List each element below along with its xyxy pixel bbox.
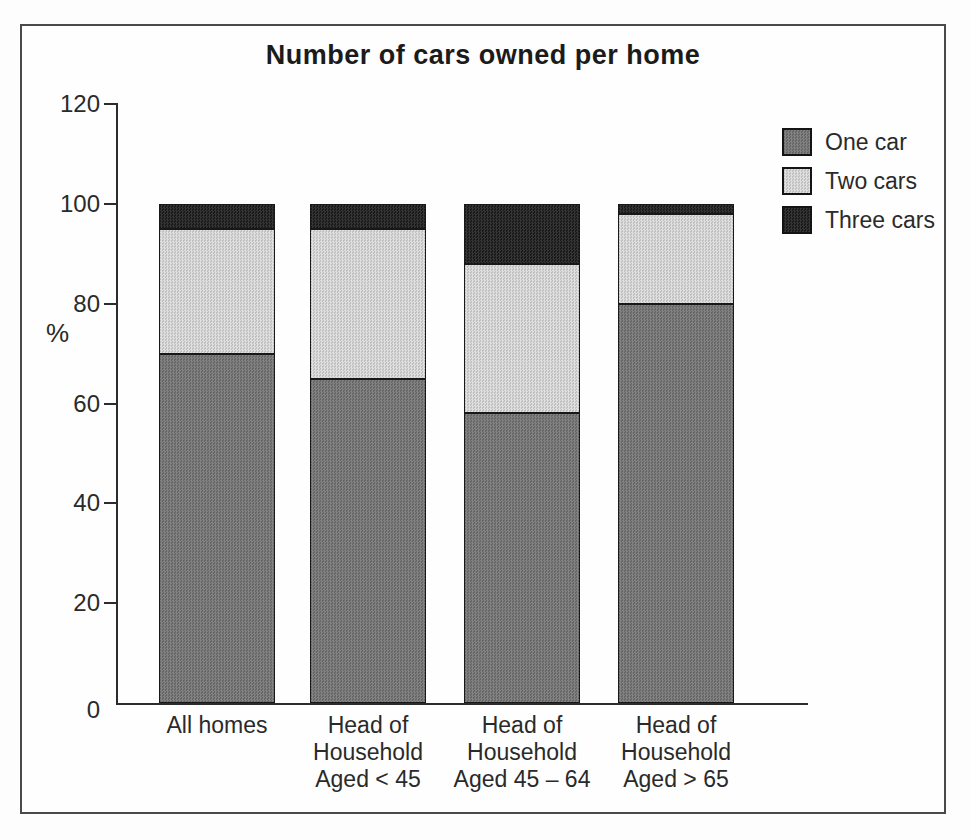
bar-head-of-household-aged-45-64 [464,204,580,703]
legend-label-two-cars: Two cars [825,167,917,195]
bar-head-of-household-aged-65 [618,204,734,703]
legend-swatch-two-cars [782,167,812,195]
y-tick-label-20: 20 [36,590,100,616]
bar-all-homes [159,204,275,703]
bar-segment-head-of-household-aged-45-three-cars [310,204,426,229]
y-tick-20 [104,602,117,604]
legend-swatch-one-car [782,128,812,156]
bar-segment-head-of-household-aged-65-three-cars [618,204,734,214]
y-tick-100 [104,203,117,205]
y-tick-label-120: 120 [36,91,100,117]
y-axis-label: % [46,318,88,349]
bar-segment-head-of-household-aged-65-two-cars [618,214,734,304]
y-tick-80 [104,303,117,305]
legend-item-two-cars: Two cars [782,167,935,195]
y-tick-60 [104,403,117,405]
legend-swatch-three-cars [782,206,812,234]
y-tick-label-40: 40 [36,490,100,516]
y-tick-40 [104,502,117,504]
chart-title: Number of cars owned per home [20,40,946,71]
category-label-line: Aged > 65 [570,766,782,793]
y-tick-120 [104,103,117,105]
bar-segment-head-of-household-aged-45-64-three-cars [464,204,580,264]
bar-head-of-household-aged-45 [310,204,426,703]
legend: One carTwo carsThree cars [782,128,935,245]
bar-segment-all-homes-one-car [159,354,275,703]
bar-segment-head-of-household-aged-45-one-car [310,379,426,703]
y-tick-label-60: 60 [36,391,100,417]
y-tick-label-80: 80 [36,291,100,317]
bar-segment-head-of-household-aged-65-one-car [618,304,734,703]
x-axis [116,703,808,705]
bar-segment-all-homes-three-cars [159,204,275,229]
chart-page: Number of cars owned per home % 02040608… [0,0,970,840]
bar-segment-head-of-household-aged-45-two-cars [310,229,426,379]
category-label-line: Household [570,739,782,766]
y-tick-label-100: 100 [36,191,100,217]
legend-label-three-cars: Three cars [825,206,935,234]
category-label-head-of-household-aged-65: Head ofHouseholdAged > 65 [570,712,782,793]
category-label-line: Head of [570,712,782,739]
legend-item-one-car: One car [782,128,935,156]
legend-item-three-cars: Three cars [782,206,935,234]
y-tick-label-0: 0 [36,697,100,723]
bar-segment-head-of-household-aged-45-64-two-cars [464,264,580,414]
bar-segment-all-homes-two-cars [159,229,275,354]
bar-segment-head-of-household-aged-45-64-one-car [464,413,580,703]
legend-label-one-car: One car [825,128,907,156]
